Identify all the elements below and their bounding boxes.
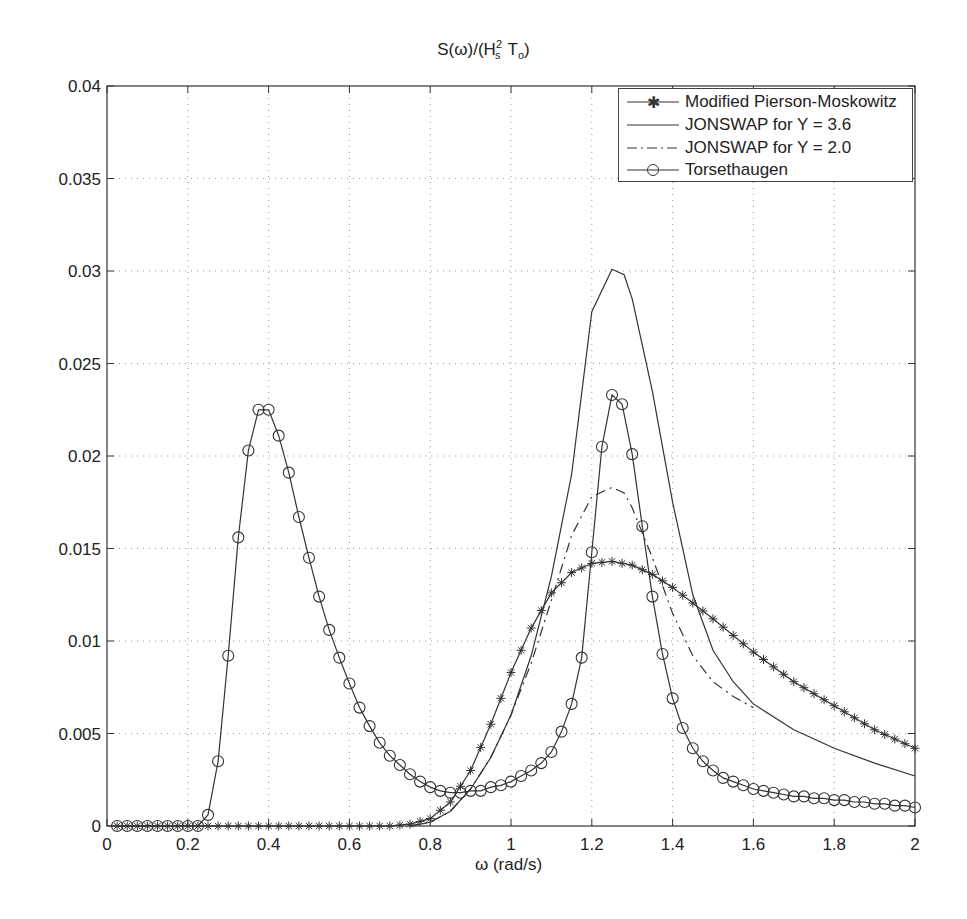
y-tick-label: 0.04 <box>68 77 101 96</box>
svg-text:✱: ✱ <box>647 94 660 111</box>
x-tick-label: 1.6 <box>742 835 766 854</box>
legend-item-jonswap-20: JONSWAP for Y = 2.0 <box>619 137 912 159</box>
y-tick-label: 0.035 <box>58 170 101 189</box>
legend-item-jonswap-36: JONSWAP for Y = 3.6 <box>619 114 912 136</box>
x-tick-label: 2 <box>910 835 919 854</box>
y-tick-label: 0.03 <box>68 262 101 281</box>
y-tick-label: 0.01 <box>68 632 101 651</box>
axis-ticks: 00.20.40.60.811.21.41.61.8200.0050.010.0… <box>58 77 919 854</box>
x-tick-label: 1.4 <box>661 835 685 854</box>
x-tick-label: 0 <box>102 835 111 854</box>
x-tick-label: 1.8 <box>822 835 846 854</box>
y-tick-label: 0.015 <box>58 540 101 559</box>
legend-item-pm: ✱ Modified Pierson-Moskowitz <box>619 91 912 113</box>
legend-item-torsethaugen: Torsethaugen <box>619 159 912 181</box>
legend: ✱ Modified Pierson-Moskowitz JONSWAP for… <box>618 88 913 182</box>
x-tick-label: 0.4 <box>257 835 281 854</box>
x-tick-label: 0.8 <box>418 835 442 854</box>
y-tick-label: 0 <box>92 817 101 836</box>
star-icon: ✱ <box>625 91 681 113</box>
x-tick-label: 1 <box>506 835 515 854</box>
series-layer <box>112 269 921 831</box>
x-tick-label: 1.2 <box>580 835 604 854</box>
x-tick-label: 0.6 <box>338 835 362 854</box>
y-tick-label: 0.025 <box>58 355 101 374</box>
x-axis-label: ω (rad/s) <box>0 855 967 875</box>
y-tick-label: 0.005 <box>58 725 101 744</box>
solid-line-icon <box>625 114 681 136</box>
dash-dot-line-icon <box>625 137 681 159</box>
chart-title: S(ω)/(H2sTo) <box>0 38 967 61</box>
circle-icon <box>625 159 681 181</box>
x-tick-label: 0.2 <box>176 835 200 854</box>
y-tick-label: 0.02 <box>68 447 101 466</box>
